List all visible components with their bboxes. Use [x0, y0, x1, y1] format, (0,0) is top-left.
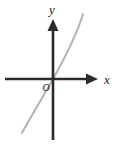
plot-background: [0, 0, 118, 146]
plot-svg: y x O: [0, 0, 118, 146]
origin-label: O: [42, 82, 49, 93]
y-axis-label: y: [47, 2, 55, 17]
x-axis-label: x: [103, 72, 110, 87]
coordinate-plot-figure: y x O: [0, 0, 118, 146]
